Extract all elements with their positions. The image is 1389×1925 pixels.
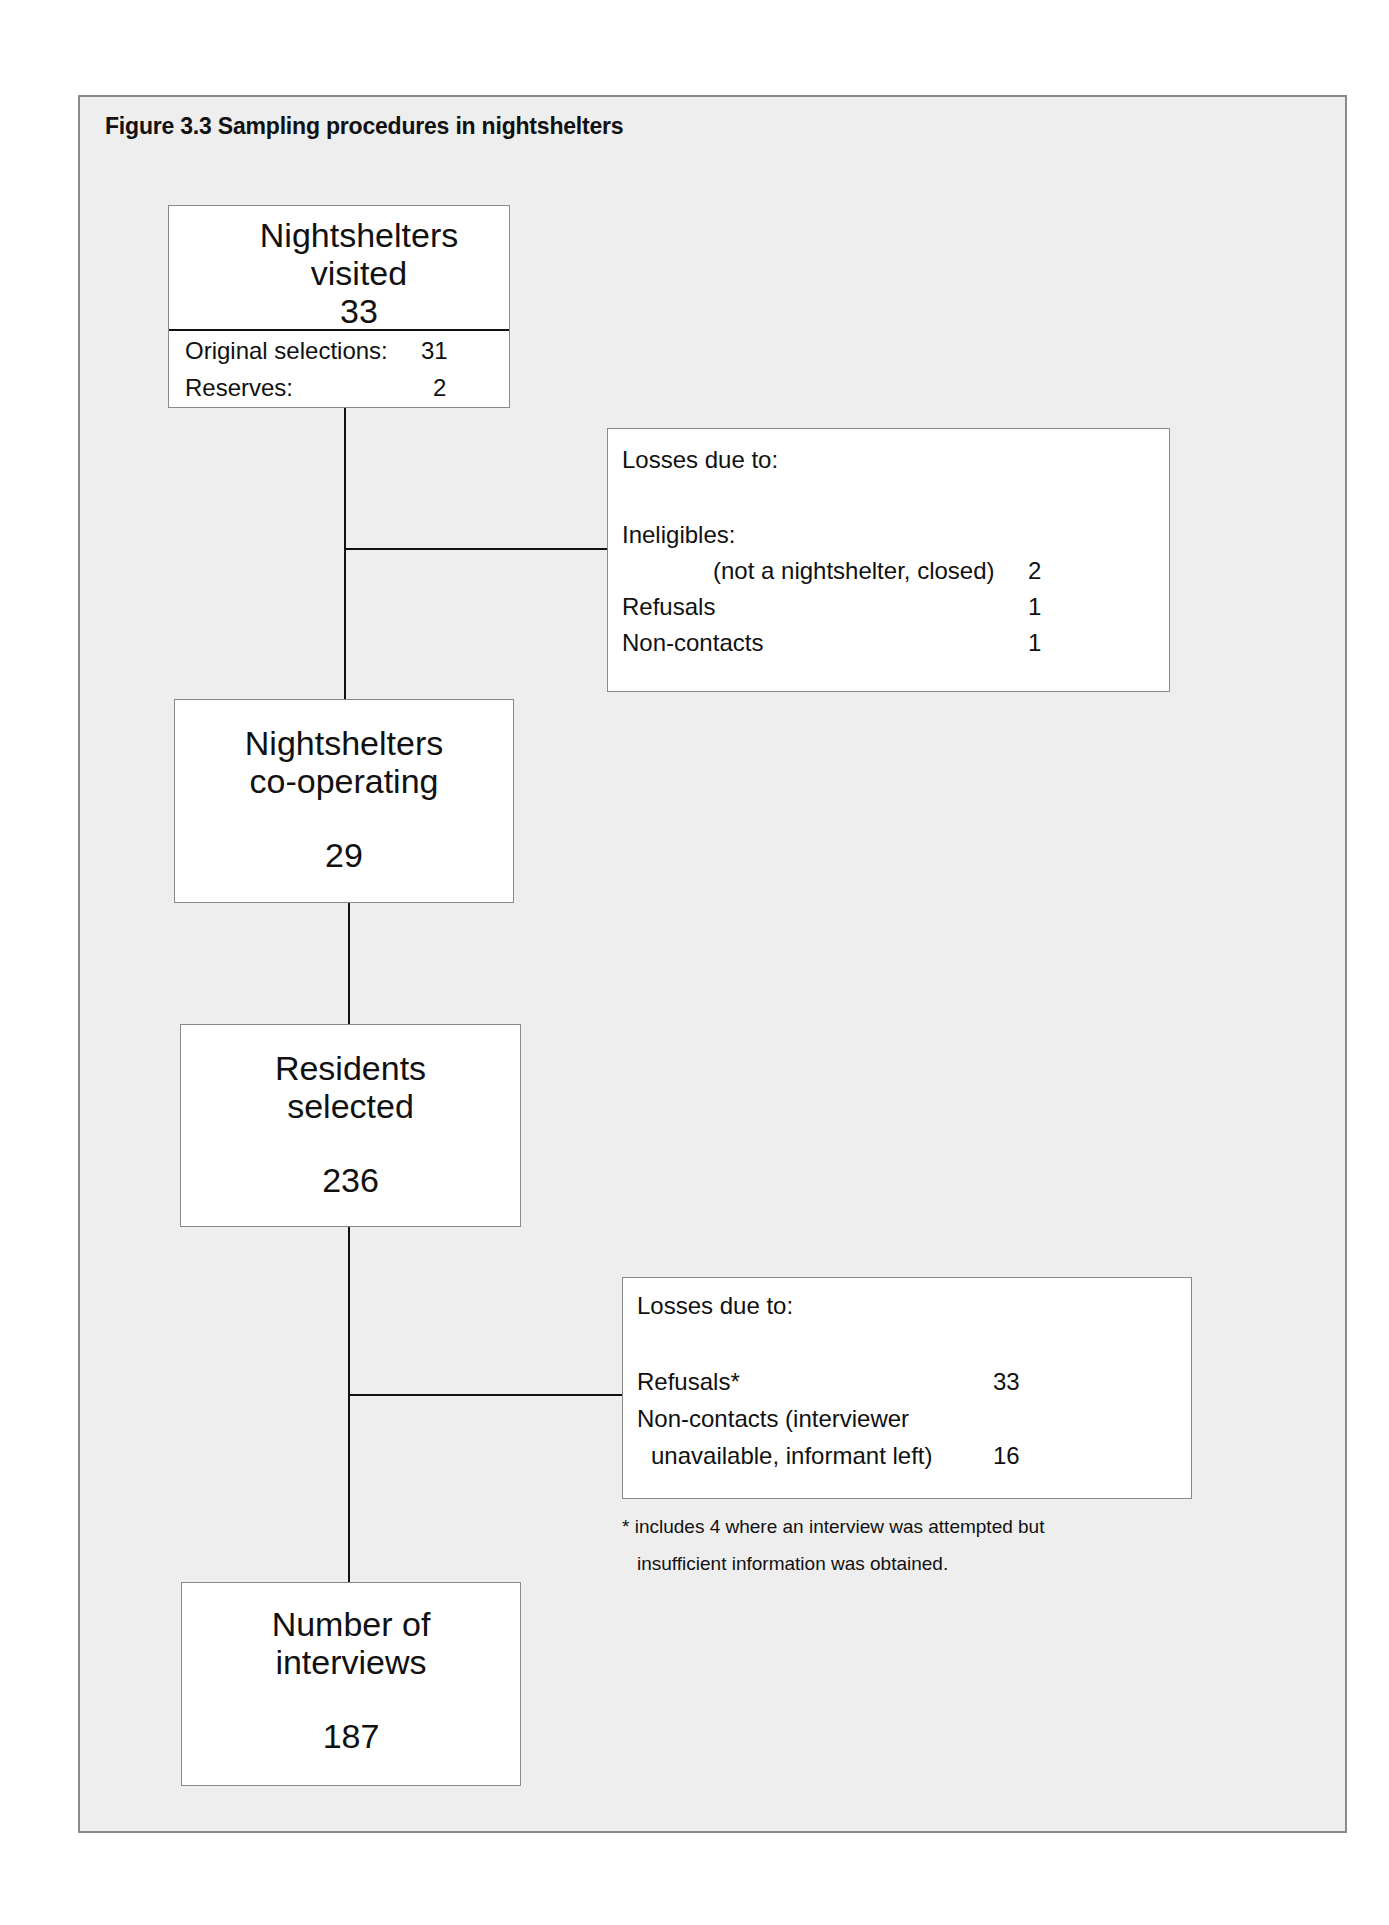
losses-heading: Losses due to: <box>622 446 778 474</box>
node-value: 236 <box>181 1161 520 1199</box>
detail-label: Original selections: <box>185 337 388 365</box>
loss-item-value: 1 <box>1028 593 1041 621</box>
node-label-line1: Nightshelters <box>175 724 513 762</box>
loss-item-label: Refusals* <box>637 1368 740 1396</box>
loss-item-value: 16 <box>993 1442 1020 1470</box>
detail-value: 2 <box>433 374 446 402</box>
node-nightshelters-visited: Nightshelters visited 33 Original select… <box>168 205 510 408</box>
connector-main-3 <box>348 1227 350 1582</box>
losses-box-1: Losses due to: Ineligibles: (not a night… <box>607 428 1170 692</box>
node-value: 187 <box>182 1717 520 1755</box>
loss-item-label: Refusals <box>622 593 715 621</box>
loss-item-label: Non-contacts <box>622 629 763 657</box>
node-label-line2: selected <box>181 1087 520 1125</box>
loss-item-label: (not a nightshelter, closed) <box>713 557 995 585</box>
node-label-line1: Residents <box>181 1049 520 1087</box>
node-value: 29 <box>175 836 513 874</box>
loss-item-label: Non-contacts (interviewer <box>637 1405 909 1433</box>
node-label-line2: co-operating <box>175 762 513 800</box>
connector-branch-1 <box>344 548 607 550</box>
losses-heading: Losses due to: <box>637 1292 793 1320</box>
losses-box-2: Losses due to: Refusals* 33 Non-contacts… <box>622 1277 1192 1499</box>
connector-main-1 <box>344 408 346 699</box>
node-value: 33 <box>209 292 509 330</box>
node-residents-selected: Residents selected 236 <box>180 1024 521 1227</box>
loss-item-label: Ineligibles: <box>622 521 735 549</box>
node-label-line1: Number of <box>182 1605 520 1643</box>
node-number-of-interviews: Number of interviews 187 <box>181 1582 521 1786</box>
connector-main-2 <box>348 903 350 1024</box>
loss-item-value: 2 <box>1028 557 1041 585</box>
figure-title: Figure 3.3 Sampling procedures in nights… <box>105 113 623 140</box>
detail-label: Reserves: <box>185 374 293 402</box>
loss-item-label: unavailable, informant left) <box>651 1442 932 1470</box>
footnote-line1: * includes 4 where an interview was atte… <box>622 1516 1044 1538</box>
node-label-line2: interviews <box>182 1643 520 1681</box>
node-label-line2: visited <box>209 254 509 292</box>
connector-branch-2 <box>348 1394 622 1396</box>
node-nightshelters-cooperating: Nightshelters co-operating 29 <box>174 699 514 903</box>
node-divider <box>169 329 509 331</box>
detail-value: 31 <box>421 337 448 365</box>
node-label-line1: Nightshelters <box>209 216 509 254</box>
loss-item-value: 33 <box>993 1368 1020 1396</box>
footnote-line2: insufficient information was obtained. <box>637 1553 948 1575</box>
loss-item-value: 1 <box>1028 629 1041 657</box>
